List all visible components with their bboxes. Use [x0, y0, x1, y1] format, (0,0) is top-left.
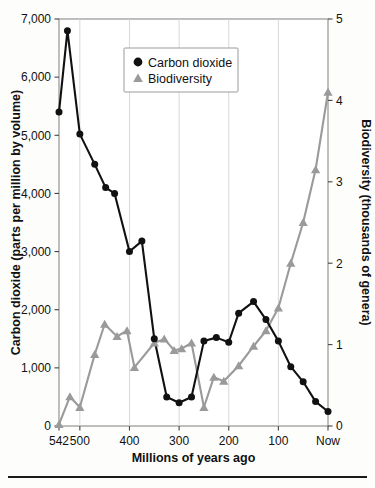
- co2-point-25: [312, 398, 319, 405]
- co2-point-125: [262, 316, 269, 323]
- co2-point-300: [176, 399, 183, 406]
- co2-point-75: [287, 363, 294, 370]
- y-left-tick-label-1000: 1,000: [21, 361, 51, 375]
- co2-point-200: [225, 339, 232, 346]
- legend-label-biodiversity: Biodiversity: [148, 72, 213, 86]
- co2-point-150: [250, 298, 257, 305]
- x-tick-label-400: 400: [119, 434, 139, 448]
- y-left-tick-label-6000: 6,000: [21, 70, 51, 84]
- co2-point-50: [300, 378, 307, 385]
- y-right-tick-label-1: 1: [336, 338, 343, 352]
- y-right-tick-label-2: 2: [336, 257, 343, 271]
- co2-point-180: [235, 310, 242, 317]
- y-right-tick-label-4: 4: [336, 94, 343, 108]
- co2-point-250: [200, 338, 207, 345]
- co2-point-470: [91, 161, 98, 168]
- y-left-tick-label-2000: 2,000: [21, 303, 51, 317]
- y-axis-right-title: Biodiversity (thousands of genera): [359, 119, 373, 325]
- co2-point-525: [64, 27, 71, 34]
- x-tick-label-200: 200: [219, 434, 239, 448]
- legend-label-carbon-dioxide: Carbon dioxide: [148, 56, 232, 70]
- co2-point-0: [325, 408, 332, 415]
- x-tick-label-300: 300: [169, 434, 189, 448]
- y-left-tick-label-5000: 5,000: [21, 129, 51, 143]
- x-axis-title: Millions of years ago: [132, 451, 256, 465]
- co2-point-225: [213, 334, 220, 341]
- co2-point-325: [163, 393, 170, 400]
- y-right-tick-label-5: 5: [336, 12, 343, 26]
- y-right-tick-label-0: 0: [336, 419, 343, 433]
- y-left-tick-label-4000: 4,000: [21, 187, 51, 201]
- co2-point-275: [188, 393, 195, 400]
- x-tick-label-542: 542: [49, 434, 69, 448]
- chart-figure: 542500400300200100Now 01,0002,0003,0004,…: [0, 0, 375, 488]
- co2-point-375: [138, 238, 145, 245]
- y-left-tick-label-3000: 3,000: [21, 245, 51, 259]
- co2-point-430: [111, 190, 118, 197]
- y-left-tick-label-7000: 7,000: [21, 12, 51, 26]
- x-tick-label-500: 500: [70, 434, 90, 448]
- y-left-tick-label-0: 0: [44, 419, 51, 433]
- y-axis-left-title: Carbon dioxide (parts per million by vol…: [9, 90, 23, 355]
- co2-point-350: [151, 335, 158, 342]
- co2-point-400: [126, 248, 133, 255]
- y-right-tick-label-3: 3: [336, 175, 343, 189]
- x-tick-label-Now: Now: [316, 434, 340, 448]
- co2-point-500: [76, 131, 83, 138]
- co2-point-100: [275, 338, 282, 345]
- co2-biodiversity-line-chart: 542500400300200100Now 01,0002,0003,0004,…: [0, 0, 375, 488]
- x-tick-label-100: 100: [268, 434, 288, 448]
- chart-legend: Carbon dioxide Biodiversity: [124, 48, 238, 92]
- legend-marker-carbon-dioxide-icon: [134, 58, 143, 67]
- co2-point-448: [102, 184, 109, 191]
- co2-point-542: [56, 109, 63, 116]
